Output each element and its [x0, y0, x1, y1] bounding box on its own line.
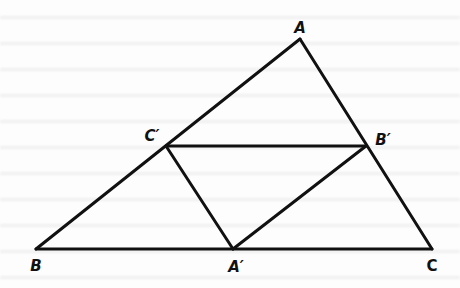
- segments-group: [36, 39, 432, 249]
- segment-b_prime-a_prime: [233, 146, 366, 249]
- label-vertex-c: C: [426, 259, 437, 274]
- label-vertex-a: A: [294, 21, 306, 36]
- segment-a-b: [36, 39, 300, 249]
- label-vertex-b: B: [30, 259, 41, 274]
- segment-c_prime-a_prime: [166, 146, 233, 249]
- label-midpoint-a-prime: A′: [228, 260, 244, 275]
- triangle-drawing: [0, 0, 460, 288]
- segment-a-c: [300, 39, 432, 249]
- label-midpoint-b-prime: B′: [375, 133, 390, 148]
- label-midpoint-c-prime: C′: [145, 129, 160, 144]
- triangle-diagram: A B C A′ B′ C′: [0, 0, 460, 288]
